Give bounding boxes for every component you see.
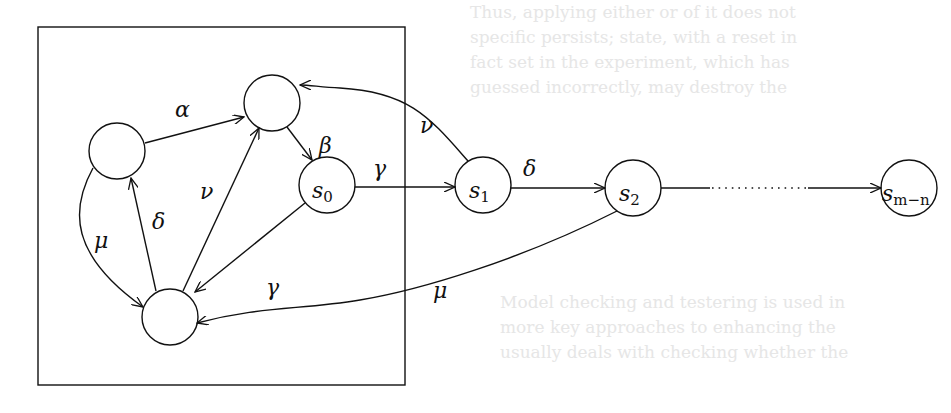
label-delta-bottom-left: δ [152,209,165,234]
label-mu-s2-bottom: μ [433,278,447,303]
node-left [89,123,145,179]
label-beta: β [318,133,332,158]
label-delta-s1-s2: δ [523,156,536,181]
node-top [244,75,300,131]
edge-gamma-s0-bottom [195,203,305,292]
state-diagram: α β γ γ ν ν δ δ μ μ s0 s1 s2 sm−n [0,0,951,413]
label-gamma-s0-bottom: γ [266,275,280,300]
enclosing-box [38,27,405,385]
label-gamma-s0-s1: γ [373,156,387,181]
label-nu-bottom-top: ν [200,179,213,204]
edge-alpha [145,117,244,143]
edge-mu-s2-bottom [197,211,617,323]
edge-nu-bottom-top [183,128,259,291]
label-mu-left-bottom: μ [94,228,108,253]
edge-delta-bottom-left [131,178,156,291]
label-nu-s1-top: ν [420,113,433,138]
label-alpha: α [175,97,190,122]
edge-beta [287,127,312,160]
node-bottom [142,289,198,345]
